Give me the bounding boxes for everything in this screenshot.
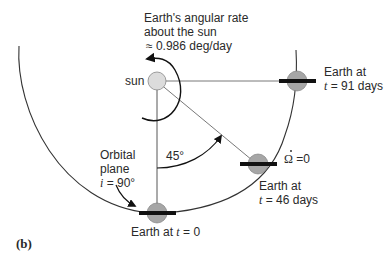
rate-line-2: about the sun (144, 25, 248, 39)
angular-rate-arrow-icon (142, 58, 181, 121)
earth-t0-value: = 0 (180, 225, 200, 239)
angular-rate-label: Earth's angular rate about the sun ≈ 0.9… (144, 11, 248, 53)
earth-t91-line1: Earth at (324, 65, 383, 79)
earth-t0-icon (139, 203, 176, 223)
omega-dot-label: Ω =0 (284, 152, 310, 166)
orbit-arc (19, 46, 297, 213)
orbital-line1: Orbital (100, 148, 135, 162)
earth-t46-label: Earth at t = 46 days (259, 179, 318, 207)
earth-t46-line1: Earth at (259, 179, 318, 193)
omega-value: =0 (293, 152, 310, 166)
orbital-plane-label: Orbital plane i = 90° (100, 148, 135, 190)
earth-t46-value: = 46 days (262, 193, 318, 207)
angle-label: 45° (166, 149, 184, 163)
earth-t0-line1: Earth at (131, 225, 176, 239)
rate-line-1: Earth's angular rate (144, 11, 248, 25)
earth-t46-icon (240, 154, 277, 174)
sun-label: sun (125, 74, 144, 88)
orbital-line2: plane (100, 162, 135, 176)
sun-icon (148, 72, 166, 90)
omega-symbol: Ω (284, 152, 293, 166)
earth-t0-label: Earth at t = 0 (131, 225, 200, 239)
earth-t91-label: Earth at t = 91 days (324, 65, 383, 93)
panel-label: (b) (16, 237, 32, 251)
rate-line-3: ≈ 0.986 deg/day (144, 39, 248, 53)
earth-t91-icon (279, 71, 316, 91)
orbital-value: = 90° (103, 176, 135, 190)
earth-t91-value: = 91 days (327, 79, 383, 93)
